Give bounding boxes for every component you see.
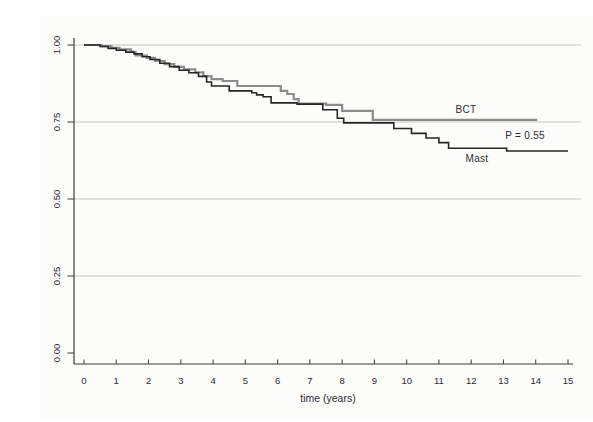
y-tick-label: 1.00 [51,36,62,55]
x-tick-label: 15 [563,375,574,386]
x-tick-label: 11 [434,375,444,386]
x-tick-label: 9 [372,375,377,386]
x-tick-label: 4 [210,375,215,386]
bct-curve-label: BCT [456,104,477,115]
x-tick-label: 8 [339,375,344,386]
km-survival-figure: 01234567891011121314150.000.250.500.751.… [40,16,593,418]
y-tick-label: 0.00 [51,344,62,363]
x-tick-label: 2 [146,375,151,386]
x-tick-label: 3 [178,375,183,386]
y-tick-label: 0.50 [51,190,62,209]
p-value-label: P = 0.55 [505,130,545,141]
x-tick-label: 7 [307,375,312,386]
x-tick-label: 12 [466,375,477,386]
x-tick-label: 13 [498,375,509,386]
km-survival-chart: 01234567891011121314150.000.250.500.751.… [40,16,593,418]
y-tick-label: 0.25 [51,267,62,286]
x-tick-label: 6 [275,375,280,386]
x-tick-label: 10 [401,375,412,386]
x-tick-label: 14 [530,375,541,386]
y-tick-label: 0.75 [51,113,62,132]
chart-built-layers: 01234567891011121314150.000.250.500.751.… [51,36,581,386]
gridlines [74,45,581,276]
axes [74,38,573,364]
y-axis-ticks: 0.000.250.500.751.00 [51,36,74,363]
x-tick-label: 1 [114,375,119,386]
x-tick-label: 5 [243,375,248,386]
x-axis-title: time (years) [300,392,355,404]
mast-curve-label: Mast [466,153,489,164]
survival-curves [84,45,568,151]
x-tick-label: 0 [81,375,86,386]
